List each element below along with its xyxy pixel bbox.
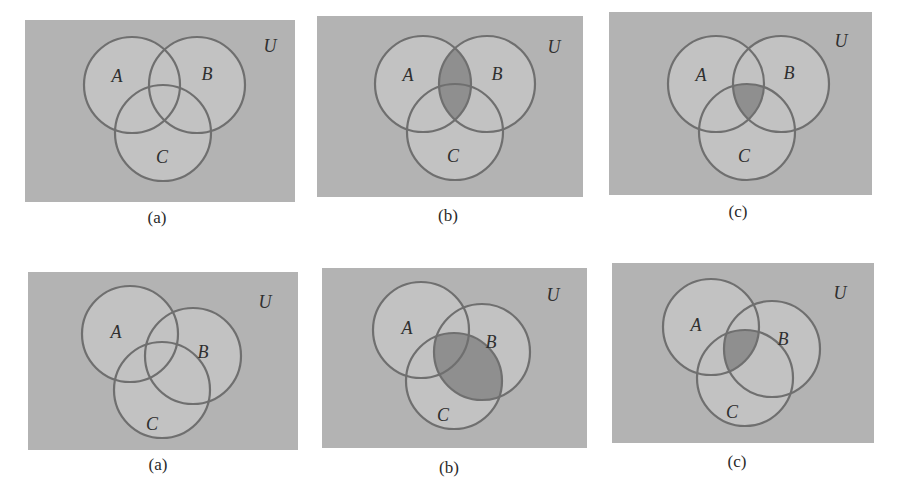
panel-caption: (c) — [697, 452, 777, 472]
venn-panel-top-b: ABCU — [317, 16, 583, 197]
set-label-a: A — [111, 66, 124, 86]
set-label-u: U — [259, 292, 273, 312]
panel-caption: (b) — [408, 206, 488, 226]
set-label-b: B — [778, 329, 789, 349]
set-label-c: C — [738, 146, 751, 166]
venn-panel-bottom-b: ABCU — [322, 268, 587, 448]
set-label-c: C — [726, 402, 739, 422]
panel-caption: (b) — [409, 458, 489, 478]
set-label-u: U — [264, 36, 278, 56]
set-label-a: A — [401, 318, 414, 338]
set-label-a: A — [695, 65, 708, 85]
venn-panel-top-c: ABCU — [609, 12, 872, 195]
set-label-c: C — [447, 146, 460, 166]
set-label-a: A — [402, 65, 415, 85]
set-label-u: U — [834, 283, 848, 303]
set-label-b: B — [198, 342, 209, 362]
venn-panel-top-a: ABCU — [25, 20, 295, 202]
panel-caption: (a) — [117, 208, 197, 228]
set-label-b: B — [486, 332, 497, 352]
set-label-u: U — [835, 31, 849, 51]
set-label-u: U — [548, 37, 562, 57]
set-label-u: U — [547, 285, 561, 305]
set-label-b: B — [492, 64, 503, 84]
set-label-c: C — [146, 414, 159, 434]
venn-panel-bottom-c: ABCU — [612, 263, 874, 443]
set-label-b: B — [202, 64, 213, 84]
set-label-a: A — [690, 315, 703, 335]
venn-panel-bottom-a: ABCU — [28, 272, 298, 450]
set-label-c: C — [156, 147, 169, 167]
set-label-b: B — [784, 63, 795, 83]
set-label-a: A — [110, 322, 123, 342]
set-label-c: C — [437, 405, 450, 425]
panel-caption: (c) — [698, 202, 778, 222]
panel-caption: (a) — [118, 455, 198, 475]
